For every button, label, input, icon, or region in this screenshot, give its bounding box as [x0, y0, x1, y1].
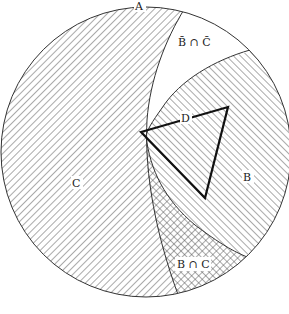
label-b-complement-intersect-c-complement: B̄ ∩ C̄: [178, 36, 211, 49]
label-c: C: [72, 177, 80, 190]
venn-diagram: A B̄ ∩ C̄ D C B B ∩ C: [0, 0, 289, 314]
label-a: A: [134, 0, 144, 13]
label-b-intersect-c: B ∩ C: [177, 258, 210, 271]
label-b: B: [243, 171, 251, 184]
label-d: D: [181, 112, 190, 125]
